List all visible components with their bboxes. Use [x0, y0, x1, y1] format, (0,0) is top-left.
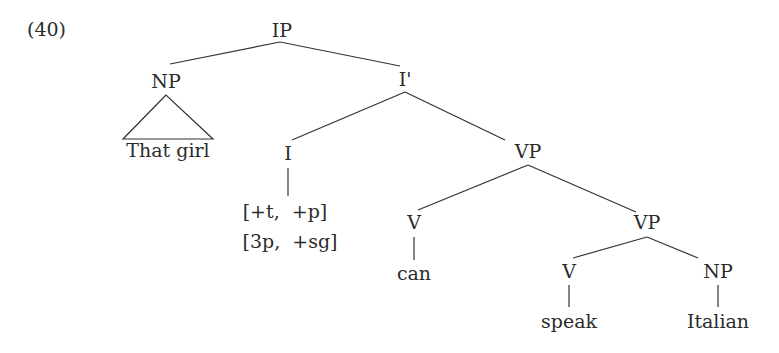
- i-features-tense-person: [+t, +p]: [243, 202, 328, 221]
- node-i-bar: I': [399, 70, 412, 89]
- node-np-object: NP: [703, 262, 732, 281]
- node-v-speak: V: [562, 262, 576, 281]
- example-number: (40): [27, 20, 66, 39]
- node-vp-lower: VP: [634, 213, 661, 232]
- i-features-agreement: [3p, +sg]: [242, 232, 337, 251]
- leaf-speak: speak: [541, 312, 597, 331]
- node-i: I: [284, 144, 292, 163]
- branch-ibar-i: [292, 92, 405, 140]
- branch-ip-np: [170, 42, 280, 64]
- node-np-subject: NP: [151, 72, 180, 91]
- branch-ip-ibar: [280, 42, 400, 66]
- branch-ibar-vp: [405, 92, 505, 140]
- node-v-can: V: [407, 213, 421, 232]
- node-vp-upper: VP: [515, 142, 542, 161]
- np-triangle: [123, 95, 213, 139]
- leaf-can: can: [397, 264, 431, 283]
- node-ip: IP: [272, 21, 292, 40]
- leaf-that-girl: That girl: [126, 141, 209, 160]
- tree-branches: [0, 0, 779, 353]
- leaf-italian: Italian: [687, 312, 749, 331]
- syntax-tree-diagram: (40) IP NP That girl I' I [+t, +p] [3p, …: [0, 0, 779, 353]
- branch-vp2-v: [573, 237, 647, 258]
- branch-vp-vp: [528, 165, 636, 212]
- branch-vp-v: [418, 165, 528, 210]
- branch-vp2-np: [647, 237, 698, 258]
